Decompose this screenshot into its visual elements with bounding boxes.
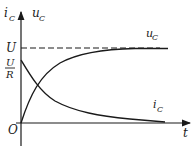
current-level-label: U R bbox=[5, 57, 15, 80]
voltage-curve-label: u C bbox=[146, 27, 158, 42]
voltage-curve bbox=[21, 49, 168, 124]
y-label-current: i C bbox=[4, 6, 15, 23]
x-label-time: t bbox=[183, 126, 188, 140]
svg-text:R: R bbox=[5, 69, 14, 80]
svg-text:U: U bbox=[6, 57, 15, 68]
svg-text:C: C bbox=[152, 33, 158, 42]
current-curve-label: i C bbox=[153, 98, 163, 114]
origin-label: O bbox=[8, 123, 18, 137]
current-curve bbox=[21, 60, 165, 122]
svg-text:i: i bbox=[4, 6, 8, 20]
voltage-level-label: U bbox=[6, 41, 17, 55]
svg-text:C: C bbox=[39, 14, 45, 23]
rc-charging-diagram: i C u C U U R O t u C i C bbox=[0, 0, 196, 153]
svg-text:C: C bbox=[9, 14, 15, 23]
svg-text:C: C bbox=[157, 105, 163, 114]
svg-text:i: i bbox=[153, 98, 157, 111]
y-label-voltage: u C bbox=[32, 6, 45, 23]
